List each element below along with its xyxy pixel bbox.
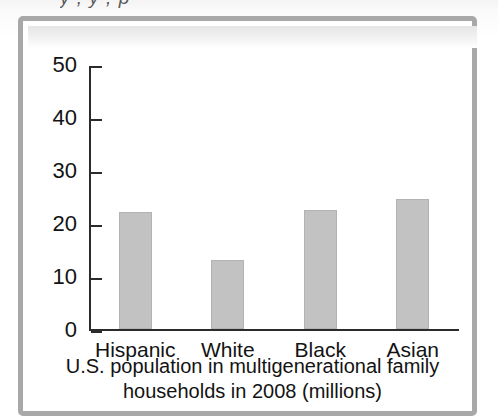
bar-hispanic bbox=[119, 212, 152, 329]
y-tick-mark bbox=[91, 172, 102, 174]
caption-line-2: households in 2008 (millions) bbox=[33, 379, 472, 404]
y-axis-line bbox=[89, 66, 91, 331]
plot-area: 01020304050 HispanicWhiteBlackAsian bbox=[89, 66, 459, 331]
bar-white bbox=[211, 260, 244, 329]
cropped-heading-above-figure: y , y , p bbox=[60, 0, 390, 13]
figure-caption: U.S. population in multigenerational fam… bbox=[33, 354, 472, 404]
y-tick-label: 40 bbox=[53, 106, 77, 130]
bar-black bbox=[304, 210, 337, 329]
y-tick-mark bbox=[91, 225, 102, 227]
y-tick-20: 20 bbox=[89, 225, 102, 227]
y-tick-label: 0 bbox=[65, 318, 77, 342]
y-tick-0: 0 bbox=[89, 331, 102, 333]
y-tick-label: 30 bbox=[53, 159, 77, 183]
caption-line-1: U.S. population in multigenerational fam… bbox=[33, 354, 472, 379]
x-axis-line bbox=[89, 329, 459, 331]
y-tick-mark bbox=[91, 331, 102, 333]
y-tick-mark bbox=[91, 119, 102, 121]
y-tick-30: 30 bbox=[89, 172, 102, 174]
y-tick-label: 10 bbox=[53, 265, 77, 289]
y-tick-mark bbox=[91, 66, 102, 68]
bar-asian bbox=[396, 199, 429, 329]
y-tick-mark bbox=[91, 278, 102, 280]
figure-frame: 01020304050 HispanicWhiteBlackAsian U.S.… bbox=[18, 16, 477, 416]
y-tick-label: 50 bbox=[53, 53, 77, 77]
y-tick-10: 10 bbox=[89, 278, 102, 280]
y-tick-50: 50 bbox=[89, 66, 102, 68]
y-tick-40: 40 bbox=[89, 119, 102, 121]
y-tick-label: 20 bbox=[53, 212, 77, 236]
